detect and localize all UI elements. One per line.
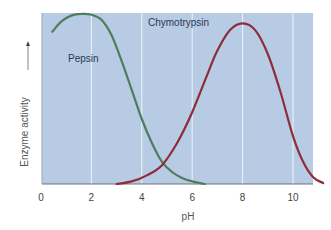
- enzyme-activity-chart: PepsinChymotrypsin 0246810 pH Enzyme act…: [0, 0, 331, 230]
- chymotrypsin-label: Chymotrypsin: [148, 17, 209, 28]
- x-axis-label: pH: [182, 211, 195, 222]
- x-tick-label: 6: [189, 192, 195, 203]
- x-tick-label: 2: [89, 192, 95, 203]
- y-axis-arrow-icon: [26, 41, 30, 70]
- plot-background: [42, 13, 313, 184]
- x-tick-labels: 0246810: [38, 192, 299, 203]
- y-axis-label-group: Enzyme activity: [19, 97, 30, 166]
- x-tick-label: 0: [38, 192, 44, 203]
- x-tick-label: 8: [240, 192, 246, 203]
- x-tick-label: 4: [139, 192, 145, 203]
- y-axis-label: Enzyme activity: [19, 97, 30, 166]
- x-tick-label: 10: [287, 192, 299, 203]
- pepsin-label: Pepsin: [68, 53, 99, 64]
